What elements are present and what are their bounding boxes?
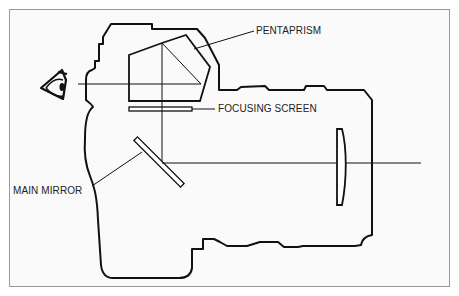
pentaprism-label: PENTAPRISM (256, 25, 321, 36)
lens-element (337, 129, 346, 205)
pentaprism-leader (194, 31, 254, 49)
eye-icon (41, 70, 67, 99)
main-mirror-label: MAIN MIRROR (13, 185, 82, 196)
main-mirror-shape (134, 137, 184, 187)
camera-body-outline (85, 24, 372, 278)
focusing-screen-shape (129, 107, 192, 111)
camera-diagram (0, 0, 459, 296)
pentaprism-shape (129, 35, 210, 101)
focusing-screen-label: FOCUSING SCREEN (218, 103, 317, 114)
main-mirror-leader (92, 152, 142, 186)
